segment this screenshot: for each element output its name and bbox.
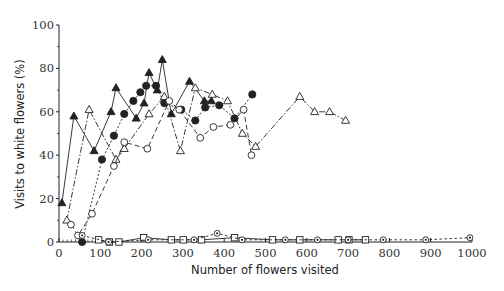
series-open-circle [68,98,255,239]
y-tick-label: 0 [47,235,54,249]
y-tick-label: 40 [39,148,54,162]
open-circle-marker [111,163,118,170]
open-circle-marker [121,139,128,146]
x-tick-label: 100 [89,246,111,260]
x-tick-label: 200 [131,246,153,260]
y-tick-label: 20 [39,192,54,206]
filled-triangle-marker [207,97,215,104]
open-circle-marker [210,124,217,131]
filled-circle-marker [121,110,128,117]
open-triangle-marker [296,92,304,99]
filled-circle-marker [202,104,209,111]
chart-plot: 0204060801000100200300400500600700800900… [0,0,504,291]
open-circle-marker [227,121,234,128]
x-tick-label: 0 [55,246,62,260]
x-axis-title: Number of flowers visited [191,263,339,277]
axes: 0204060801000100200300400500600700800900… [32,18,487,260]
open-circle-marker [166,98,173,105]
y-axis-title: Visits to white flowers (%) [13,59,27,209]
x-tick-label: 1000 [457,246,486,260]
series-open-square [95,234,368,245]
open-circle-marker [176,106,183,113]
filled-triangle-marker [140,99,148,106]
series-layer [58,56,473,246]
filled-circle-marker [79,238,86,245]
filled-triangle-marker [186,77,194,84]
open-circle-marker [240,106,247,113]
series-filled-triangle [58,56,216,206]
filled-triangle-marker [107,108,115,115]
y-tick-label: 60 [39,105,54,119]
filled-triangle-marker [70,112,78,119]
open-triangle-marker [238,129,246,136]
filled-circle-marker [143,82,150,89]
open-circle-marker [89,210,96,217]
filled-triangle-marker [112,84,120,91]
open-triangle-marker [342,116,350,123]
filled-triangle-marker [90,147,98,154]
filled-triangle-marker [132,114,140,121]
filled-circle-marker [98,156,105,163]
open-square-marker [231,234,237,240]
x-tick-label: 800 [378,246,400,260]
series-filled-circle [79,82,256,245]
filled-circle-marker [216,102,223,109]
filled-triangle-marker [167,110,175,117]
open-triangle-marker [176,147,184,154]
filled-circle-marker [110,132,117,139]
open-triangle-marker [326,108,334,115]
open-circle-marker [144,145,151,152]
filled-circle-marker [192,117,199,124]
x-tick-label: 600 [296,246,318,260]
x-tick-label: 700 [337,246,359,260]
open-triangle-marker [208,90,216,97]
open-circle-marker [197,134,204,141]
open-circle-marker [248,152,255,159]
filled-triangle-marker [145,69,153,76]
filled-circle-marker [249,91,256,98]
filled-circle-marker [130,97,137,104]
filled-triangle-marker [158,56,166,63]
y-tick-label: 100 [32,18,54,32]
x-tick-label: 400 [213,246,235,260]
x-tick-label: 900 [420,246,442,260]
filled-circle-marker [152,82,159,89]
x-tick-label: 300 [172,246,194,260]
x-tick-label: 500 [255,246,277,260]
filled-circle-marker [137,89,144,96]
y-tick-label: 80 [39,61,54,75]
open-triangle-marker [85,105,93,112]
open-triangle-marker [224,97,232,104]
open-circle-marker [68,221,75,228]
